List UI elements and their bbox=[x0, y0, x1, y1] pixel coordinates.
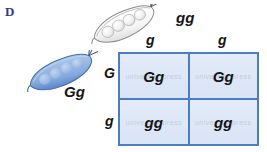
punnett-cell: university press gg bbox=[119, 99, 189, 145]
panel-letter: D bbox=[5, 4, 15, 20]
punnett-cell-genotype: gg bbox=[145, 115, 163, 130]
top-parent-genotype-label: gg bbox=[176, 10, 194, 25]
punnett-cell-genotype: gg bbox=[214, 115, 232, 130]
pea-pod-blue bbox=[22, 50, 104, 96]
punnett-square-diagram: D bbox=[0, 0, 267, 152]
punnett-cell-genotype: Gg bbox=[213, 69, 234, 84]
punnett-cell-genotype: Gg bbox=[143, 69, 164, 84]
punnett-grid: university press Gg university press Gg … bbox=[118, 52, 259, 146]
punnett-cell: university press Gg bbox=[189, 53, 259, 99]
gamete-column-label-2: g bbox=[218, 33, 227, 47]
gamete-column-label-1: g bbox=[146, 33, 155, 47]
punnett-cell: university press gg bbox=[189, 99, 259, 145]
pea-pod-icon bbox=[22, 50, 104, 92]
gamete-row-label-2: g bbox=[105, 114, 114, 128]
left-parent-genotype-label: Gg bbox=[64, 84, 85, 99]
gamete-row-label-1: G bbox=[104, 66, 115, 80]
punnett-cell: university press Gg bbox=[119, 53, 189, 99]
